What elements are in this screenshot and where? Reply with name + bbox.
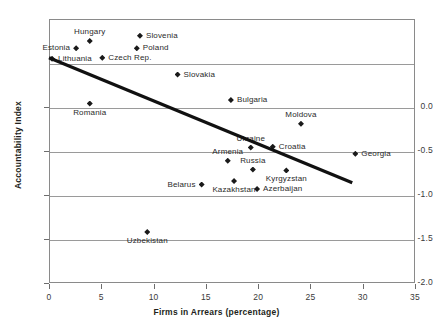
x-tick-label: 20	[243, 292, 273, 302]
x-tick-mark	[310, 284, 311, 289]
trendline-layer	[0, 0, 433, 326]
y-tick-label: -0.5	[393, 145, 433, 155]
x-tick-label: 35	[400, 292, 430, 302]
x-tick-label: 10	[139, 292, 169, 302]
x-tick-mark	[154, 284, 155, 289]
y-tick-mark	[44, 195, 49, 196]
x-tick-mark	[101, 284, 102, 289]
x-axis-title: Firms in Arrears (percentage)	[0, 307, 433, 317]
y-axis-title: Accountability Index	[13, 65, 23, 225]
x-tick-label: 25	[295, 292, 325, 302]
x-tick-label: 15	[191, 292, 221, 302]
y-tick-label: -1.5	[393, 233, 433, 243]
x-tick-label: 30	[348, 292, 378, 302]
y-tick-mark	[44, 107, 49, 108]
x-tick-mark	[363, 284, 364, 289]
trendline	[49, 58, 352, 183]
scatter-chart: EstoniaHungaryLithuaniaCzech Rep.Sloveni…	[0, 0, 433, 326]
y-tick-label: 0.0	[393, 101, 433, 111]
y-tick-label: -2.0	[393, 277, 433, 287]
x-tick-label: 0	[34, 292, 64, 302]
x-tick-mark	[206, 284, 207, 289]
y-tick-mark	[44, 239, 49, 240]
x-tick-label: 5	[86, 292, 116, 302]
x-tick-mark	[49, 284, 50, 289]
x-tick-mark	[258, 284, 259, 289]
x-tick-mark	[415, 284, 416, 289]
y-tick-label: -1.0	[393, 189, 433, 199]
y-tick-mark	[44, 151, 49, 152]
